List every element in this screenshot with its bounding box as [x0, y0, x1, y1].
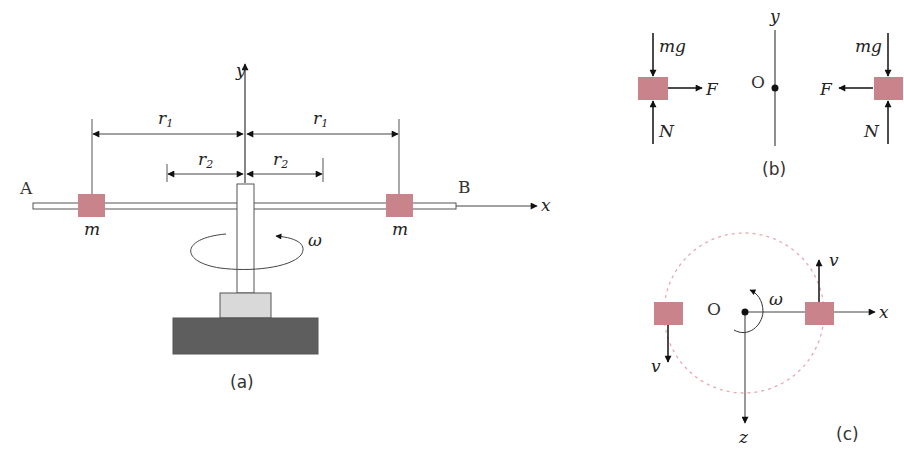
y-axis-label: y: [235, 60, 246, 80]
x-axis-label: x: [541, 195, 551, 215]
mass-left: [78, 194, 105, 217]
r2-right-label: r2: [273, 149, 288, 171]
figure-c: x z O ω v v (c): [651, 233, 889, 447]
figure-a: y x A B m m r1 r1 r2 r2 ω (: [19, 60, 551, 392]
y-axis-label-b: y: [769, 6, 780, 26]
normal-label-right: N: [863, 121, 880, 141]
force-label-left: F: [705, 79, 719, 99]
rotating-rod-diagram: y x A B m m r1 r1 r2 r2 ω (: [0, 0, 904, 458]
figure-b: y O mg N F mg N F (b): [638, 6, 903, 179]
mass-left-label: m: [84, 219, 100, 239]
mass-right-label: m: [392, 219, 408, 239]
mass-right-b: [874, 77, 903, 100]
caption-a: (a): [230, 372, 254, 392]
z-axis-label-c: z: [738, 427, 749, 447]
r1-left-label: r1: [158, 108, 173, 130]
x-axis-label-c: x: [879, 302, 889, 322]
mass-left-b: [638, 77, 668, 100]
force-label-right: F: [819, 79, 833, 99]
mass-right-c: [805, 302, 834, 325]
r2-left-label: r2: [198, 149, 213, 171]
velocity-label-right: v: [829, 250, 839, 270]
caption-b: (b): [762, 159, 786, 179]
weight-label-left: mg: [659, 36, 686, 56]
base-bottom: [173, 318, 318, 354]
omega-label: ω: [308, 230, 322, 250]
end-label-b: B: [458, 177, 471, 197]
end-label-a: A: [19, 178, 33, 198]
mass-right: [386, 194, 413, 217]
omega-label-c: ω: [769, 289, 783, 309]
velocity-label-left: v: [651, 356, 661, 376]
shaft: [237, 184, 254, 293]
weight-label-right: mg: [855, 36, 882, 56]
normal-label-left: N: [658, 121, 675, 141]
origin-label-c: O: [707, 299, 721, 319]
rotation-arrow-icon-c: [734, 290, 763, 333]
caption-c: (c): [836, 424, 859, 444]
mass-left-c: [654, 302, 683, 325]
origin-label-b: O: [751, 72, 765, 92]
r1-right-label: r1: [313, 108, 328, 130]
origin-dot-c: [742, 309, 749, 316]
base-top: [220, 293, 271, 318]
origin-dot-b: [772, 85, 779, 92]
